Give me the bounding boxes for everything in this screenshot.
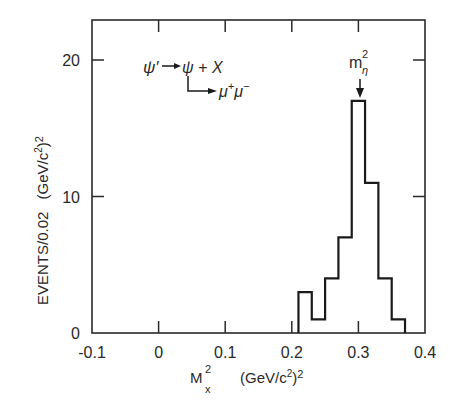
decay-arrow-icon [188,76,217,94]
y-axis-label: EVENTS/0.02 (GeV/c2)2 [33,136,51,305]
eta-mass-marker: m 2 η [349,48,368,98]
svg-text:η: η [362,64,368,76]
tick-label: 0.3 [347,344,369,361]
histogram-steps [298,101,405,333]
x-axis-label-sup: 2 [205,363,211,375]
tick-label: 0.4 [414,344,436,361]
axis-ticks [92,20,425,333]
tick-label: 0 [154,344,163,361]
tick-label: 0.1 [214,344,236,361]
muon-pair-text: μ+μ− [218,80,250,100]
x-axis-units: (GeV/c2)2 [240,368,303,386]
down-arrow-icon [356,79,364,98]
tick-label: 10 [62,189,80,206]
arrow-icon [162,63,181,69]
tick-label: 20 [62,52,80,69]
psi-prime-symbol: ψ′ [143,58,159,77]
x-axis-label-sub: x [205,383,211,395]
tick-label: 0 [71,325,80,342]
tick-label: 0.2 [281,344,303,361]
histogram-chart: -0.100.10.20.30.401020 EVENTS/0.02 (GeV/… [0,0,465,415]
svg-text:m: m [349,54,362,71]
axis-tick-labels: -0.100.10.20.30.401020 [62,52,436,361]
plot-frame [92,20,425,333]
x-axis-label: M [190,369,203,386]
tick-label: -0.1 [78,344,106,361]
reaction-annotation: ψ′ ψ + X μ+μ− [143,58,250,100]
psi-plus-x-text: ψ + X [182,59,224,76]
svg-text:2: 2 [362,48,368,60]
